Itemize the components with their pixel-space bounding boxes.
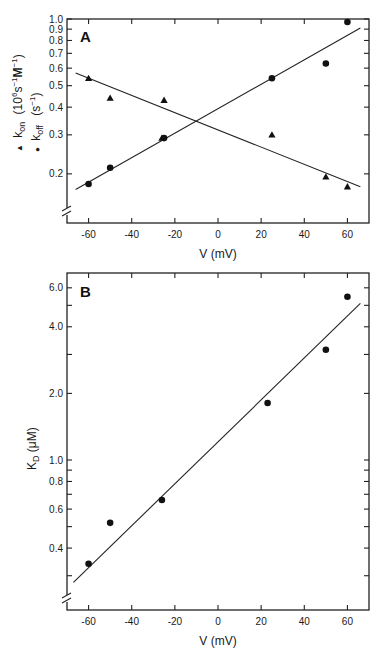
y-tick-label: 1.0 — [49, 455, 63, 466]
y-tick-label: 0.4 — [49, 102, 63, 113]
data-point-k-d — [323, 346, 330, 353]
data-point-k-on — [107, 94, 114, 100]
y-tick-label: 0.5 — [49, 80, 63, 91]
data-point-k-off — [107, 164, 114, 171]
kon-label: ▲ kon (106s−1M−1) — [10, 54, 28, 152]
data-point-k-on — [344, 183, 351, 189]
panel-a-fit-lines — [76, 28, 361, 189]
x-tick-label: -20 — [168, 229, 183, 240]
x-tick-label: 40 — [299, 229, 311, 240]
data-point-k-on — [268, 131, 275, 137]
panel-b-fit-lines — [73, 303, 360, 582]
y-tick-label: 0.3 — [49, 129, 63, 140]
y-tick-label: 0.9 — [49, 24, 63, 35]
panel-a-letter: A — [80, 28, 91, 45]
data-point-k-on — [85, 75, 92, 81]
data-point-k-d — [159, 497, 166, 504]
data-point-k-d — [85, 560, 92, 567]
panel-b-y-axis-title: KD (μM) — [25, 427, 41, 470]
x-tick-label: 0 — [215, 229, 221, 240]
x-tick-label: 20 — [256, 616, 268, 627]
panel-a: A -60-40-200204060 0.20.30.40.50.60.70.8… — [10, 14, 369, 262]
x-tick-label: 0 — [215, 616, 221, 627]
panel-a-data-points — [85, 19, 351, 190]
fit-line-k-on — [76, 73, 361, 187]
data-point-k-on — [160, 97, 167, 103]
y-tick-label: 4.0 — [49, 321, 63, 332]
data-point-k-off — [161, 135, 168, 142]
y-tick-label: 0.8 — [49, 35, 63, 46]
y-tick-label: 0.6 — [49, 504, 63, 515]
panel-b-x-axis-title: V (mV) — [199, 634, 236, 648]
data-point-k-d — [344, 293, 351, 300]
data-point-k-off — [269, 75, 276, 82]
y-tick-label: 0.2 — [49, 168, 63, 179]
y-tick-label: 0.6 — [49, 63, 63, 74]
x-tick-label: -40 — [124, 229, 139, 240]
panel-b-letter: B — [80, 283, 91, 300]
x-tick-label: -40 — [124, 616, 139, 627]
y-tick-label: 0.8 — [49, 476, 63, 487]
x-tick-label: 20 — [256, 229, 268, 240]
figure: A -60-40-200204060 0.20.30.40.50.60.70.8… — [0, 0, 382, 655]
y-tick-label: 0.7 — [49, 48, 63, 59]
fit-line-k-off — [76, 28, 361, 189]
data-point-k-d — [264, 400, 271, 407]
x-tick-label: -60 — [81, 616, 96, 627]
x-tick-label: -20 — [168, 616, 183, 627]
panel-a-x-axis-title: V (mV) — [199, 247, 236, 261]
y-tick-label: 2.0 — [49, 388, 63, 399]
data-point-k-off — [323, 60, 330, 67]
panel-b-y-ticks: 0.40.60.81.02.04.06.0 — [49, 282, 369, 575]
data-point-k-off — [85, 181, 92, 188]
x-tick-label: 40 — [299, 616, 311, 627]
y-tick-label: 6.0 — [49, 282, 63, 293]
data-point-k-d — [107, 520, 114, 527]
x-tick-label: -60 — [81, 229, 96, 240]
panel-a-y-ticks: 0.20.30.40.50.60.70.80.91.0 — [49, 14, 369, 180]
x-tick-label: 60 — [342, 229, 354, 240]
y-tick-label: 0.4 — [49, 543, 63, 554]
circle-legend-icon: ● — [33, 147, 42, 152]
svg-text:KD (μM): KD (μM) — [25, 427, 41, 470]
data-point-k-off — [344, 19, 351, 26]
y-tick-label: 1.0 — [49, 14, 63, 25]
fit-line-k-d — [73, 303, 360, 582]
x-tick-label: 60 — [342, 616, 354, 627]
koff-label: ● koff (s−1) — [28, 93, 46, 153]
panel-b-x-ticks: -60-40-200204060 — [81, 273, 353, 627]
panel-b-data-points — [85, 293, 350, 567]
triangle-legend-icon: ▲ — [15, 144, 24, 152]
panel-b: B -60-40-200204060 0.40.60.81.02.04.06.0… — [25, 273, 369, 648]
panel-a-frame — [67, 19, 369, 223]
panel-a-y-axis-title: ▲ kon (106s−1M−1) ● koff (s−1) — [10, 54, 46, 152]
